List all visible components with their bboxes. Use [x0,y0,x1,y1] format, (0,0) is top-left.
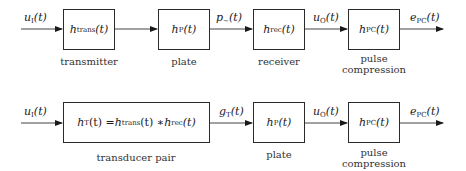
caption-transducer-pair: transducer pair [86,152,186,163]
signal-p-tilde: p∼(t) [216,11,242,25]
block-pulse-compression-row1: hPC(t) [348,9,400,50]
block-pulse-compression-row2: hPC(t) [348,102,400,143]
block-plate: hP(t) [158,9,210,50]
caption-plate-row2: plate [243,149,315,160]
signal-u-o-row2: uO(t) [313,105,339,119]
caption-transmitter: transmitter [53,56,125,67]
signal-e-pc-row2: ePC(t) [410,105,440,119]
block-transmitter: htrans(t) [63,9,115,50]
caption-pulse-compression-row2: pulse compression [334,147,414,169]
block-plate-row2: hP(t) [253,102,305,143]
caption-pulse-compression-row1: pulse compression [334,53,414,75]
block-transducer-pair: hT(t) = htrans(t) ∗ hrec(t) [63,102,210,143]
signal-u-o-row1: uO(t) [313,11,339,25]
signal-input-row1: uI(t) [24,11,47,25]
signal-e-pc-row1: ePC(t) [410,11,440,25]
signal-g-t: gT(t) [219,105,244,119]
block-receiver: hrec(t) [253,9,305,50]
caption-receiver: receiver [243,56,315,67]
signal-input-row2: uI(t) [24,105,47,119]
caption-plate: plate [148,56,220,67]
